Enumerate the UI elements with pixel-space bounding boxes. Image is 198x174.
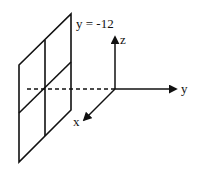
z-axis-label: z xyxy=(120,32,126,47)
diagram-canvas: y = -12 z y x xyxy=(0,0,198,174)
x-axis xyxy=(84,89,115,120)
y-axis-label: y xyxy=(181,81,188,96)
x-axis-label: x xyxy=(73,114,80,129)
plane-label: y = -12 xyxy=(76,16,114,31)
